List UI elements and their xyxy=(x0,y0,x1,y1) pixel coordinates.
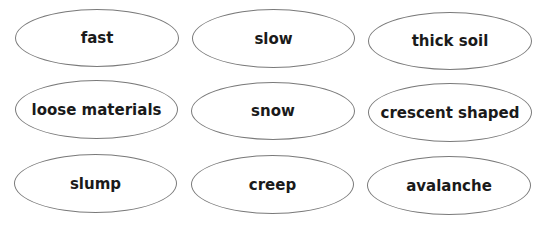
card-creep[interactable]: creep xyxy=(191,155,354,214)
card-label: fast xyxy=(81,29,114,47)
card-slump[interactable]: slump xyxy=(14,154,177,213)
card-crescent-shaped[interactable]: crescent shaped xyxy=(368,83,532,142)
card-label: slow xyxy=(254,30,292,48)
card-label: crescent shaped xyxy=(381,104,520,122)
card-label: loose materials xyxy=(32,101,162,119)
card-label: creep xyxy=(249,176,296,194)
card-loose-materials[interactable]: loose materials xyxy=(15,80,178,139)
card-thick-soil[interactable]: thick soil xyxy=(368,12,532,70)
card-avalanche[interactable]: avalanche xyxy=(367,156,531,215)
card-label: avalanche xyxy=(406,177,492,195)
card-label: thick soil xyxy=(412,32,489,50)
card-slow[interactable]: slow xyxy=(192,9,355,68)
card-label: snow xyxy=(251,102,295,120)
card-label: slump xyxy=(70,175,121,193)
card-snow[interactable]: snow xyxy=(191,82,355,140)
card-fast[interactable]: fast xyxy=(15,9,179,67)
